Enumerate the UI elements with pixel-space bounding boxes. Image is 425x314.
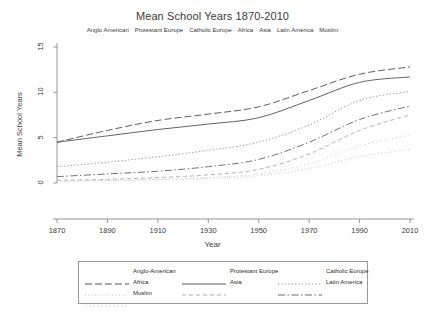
series-line-muslim <box>57 135 410 181</box>
legend-label: Asia <box>230 277 242 288</box>
subtitle-item-0: Anglo American <box>87 27 129 33</box>
legend-label: Muslim <box>133 288 152 299</box>
y-tick-0: 0 <box>36 175 45 191</box>
subtitle-item-2: Catholic Europe <box>189 27 232 33</box>
x-tick-2010: 2010 <box>395 226 425 235</box>
series-line-asia <box>57 115 410 180</box>
x-tick-1870: 1870 <box>42 226 72 235</box>
y-tick-15: 15 <box>36 39 45 55</box>
legend-key-icon <box>182 282 226 284</box>
subtitle-item-4: Asia <box>259 27 271 33</box>
series-line-catholic-europe <box>57 91 410 166</box>
y-axis-label: Mean School Years <box>15 70 24 180</box>
legend-label: Catholic Europe <box>326 266 369 277</box>
legend-key-icon <box>182 271 226 273</box>
x-tick-1930: 1930 <box>193 226 223 235</box>
y-tick-5: 5 <box>36 129 45 145</box>
chart-legend: Anglo-AmericanProtestant EuropeCatholic … <box>78 261 368 304</box>
y-tick-10: 10 <box>36 84 45 100</box>
plot-area: Mean School Years 051015 187018901910193… <box>0 36 425 236</box>
chart-title: Mean School Years 1870-2010 <box>0 10 425 22</box>
chart-screenshot: Mean School Years 1870-2010 Anglo Americ… <box>0 0 425 314</box>
series-line-latin-america <box>57 106 410 177</box>
legend-key-icon <box>85 282 129 284</box>
legend-label: Africa <box>133 277 148 288</box>
subtitle-item-6: Muslim <box>319 27 338 33</box>
legend-key-icon <box>278 271 322 273</box>
legend-label: Protestant Europe <box>230 266 278 277</box>
legend-key-icon <box>278 282 322 284</box>
series-line-protestant-europe <box>57 77 410 142</box>
legend-label: Latin America <box>326 277 362 288</box>
chart-subtitle: Anglo AmericanProtestant EuropeCatholic … <box>0 27 425 33</box>
x-axis-label: Year <box>0 240 425 249</box>
x-tick-1970: 1970 <box>294 226 324 235</box>
x-tick-1890: 1890 <box>92 226 122 235</box>
x-tick-1910: 1910 <box>143 226 173 235</box>
x-tick-1950: 1950 <box>244 226 274 235</box>
x-tick-1990: 1990 <box>345 226 375 235</box>
legend-key-icon <box>85 271 129 273</box>
subtitle-item-3: Africa <box>238 27 253 33</box>
legend-label: Anglo-American <box>133 266 176 277</box>
subtitle-item-1: Protestant Europe <box>135 27 183 33</box>
subtitle-item-5: Latin America <box>277 27 313 33</box>
legend-key-icon <box>85 293 129 295</box>
plot-svg <box>0 36 425 236</box>
